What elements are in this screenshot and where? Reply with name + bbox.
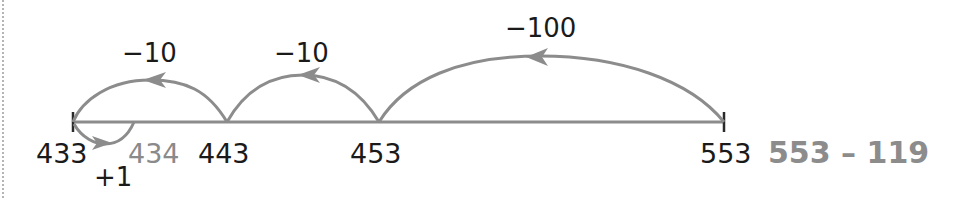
jump-arc-minus-10-second — [227, 75, 379, 122]
point-label: 434 — [128, 138, 180, 169]
number-line-diagram: −10 −10 −100 +1 433 434 443 453 553 553 … — [0, 0, 977, 198]
point-label: 553 — [700, 138, 752, 169]
jump-label: −100 — [505, 13, 576, 43]
point-label: 433 — [36, 138, 88, 169]
jump-label: −10 — [122, 38, 177, 68]
jump-label: +1 — [94, 162, 132, 192]
jump-label: −10 — [274, 38, 329, 68]
jump-arc-minus-10-first — [73, 80, 227, 122]
point-label: 453 — [350, 138, 402, 169]
expression-label: 553 – 119 — [768, 135, 929, 170]
jump-arc-minus-100 — [379, 56, 724, 122]
point-label: 443 — [198, 138, 250, 169]
